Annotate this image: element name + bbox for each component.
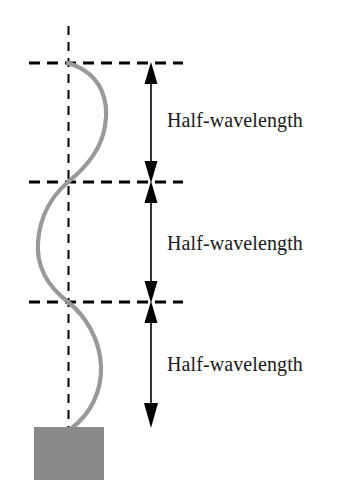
arrowhead-down-top [145, 161, 158, 183]
end-mass-block [34, 427, 104, 480]
arrowhead-down-bottom [144, 403, 158, 428]
dimension-arrow-middle [145, 181, 158, 303]
standing-wave-curve [38, 63, 106, 428]
arrowhead-up-middle [145, 181, 158, 203]
standing-wave-diagram: Half-wavelength Half-wavelength Half-wav… [0, 0, 340, 499]
dimension-arrow-bottom [144, 301, 158, 428]
diagram-canvas [0, 0, 340, 499]
arrowhead-down-middle [145, 281, 158, 303]
arrowhead-up-bottom [145, 301, 158, 323]
dimension-arrow-top [145, 62, 158, 183]
arrowhead-up-top [145, 62, 158, 84]
